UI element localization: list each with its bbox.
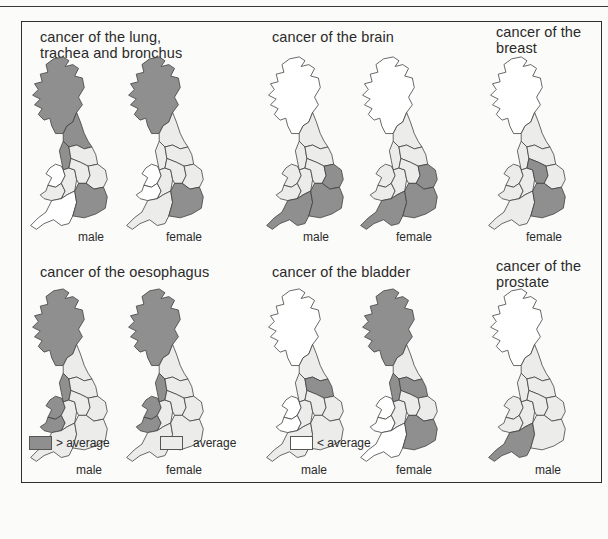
region-south-east bbox=[73, 183, 107, 217]
region-south-east bbox=[169, 183, 203, 217]
panel-title-prostate: cancer of the prostate bbox=[496, 258, 581, 290]
gb-map bbox=[258, 55, 350, 237]
sex-label: male bbox=[78, 230, 104, 244]
region-south-east bbox=[403, 183, 437, 217]
title-line: cancer of the oesophagus bbox=[40, 264, 209, 280]
sex-label: male bbox=[535, 463, 561, 477]
legend-average: average bbox=[160, 436, 236, 450]
legend-label: < average bbox=[317, 436, 371, 450]
sex-label: male bbox=[301, 463, 327, 477]
panel-title-bladder: cancer of the bladder bbox=[272, 264, 410, 280]
map-lung-male bbox=[22, 55, 114, 237]
sex-label: female bbox=[396, 463, 432, 477]
title-line: cancer of the brain bbox=[272, 29, 394, 45]
region-south-east bbox=[403, 415, 437, 449]
gb-map bbox=[480, 55, 572, 237]
legend-swatch-below bbox=[290, 436, 313, 450]
map-brain-male bbox=[258, 55, 350, 237]
map-lung-female bbox=[118, 55, 210, 237]
title-line: cancer of the bladder bbox=[272, 264, 410, 280]
map-prostate-male bbox=[480, 287, 572, 469]
gb-map bbox=[480, 287, 572, 469]
sex-label: male bbox=[76, 463, 102, 477]
title-line: cancer of the bbox=[496, 258, 581, 274]
sex-label: female bbox=[526, 230, 562, 244]
panel-title-brain: cancer of the brain bbox=[272, 29, 394, 45]
region-south-east bbox=[531, 183, 565, 217]
legend-above: > average bbox=[29, 436, 110, 450]
legend-below: < average bbox=[290, 436, 371, 450]
legend-swatch-average bbox=[160, 436, 183, 450]
panel-title-oesophagus: cancer of the oesophagus bbox=[40, 264, 209, 280]
region-south-east bbox=[309, 183, 343, 217]
panel-title-breast: cancer of the breast bbox=[496, 24, 581, 56]
gb-map bbox=[118, 55, 210, 237]
sex-label: male bbox=[303, 230, 329, 244]
legend-label: average bbox=[193, 436, 236, 450]
sex-label: female bbox=[166, 463, 202, 477]
region-south-east bbox=[531, 415, 565, 449]
map-brain-female bbox=[352, 55, 444, 237]
gb-map bbox=[352, 55, 444, 237]
title-line: cancer of the bbox=[496, 24, 581, 40]
sex-label: female bbox=[166, 230, 202, 244]
title-line: breast bbox=[496, 40, 581, 56]
legend-swatch-above bbox=[29, 436, 52, 450]
gb-map bbox=[22, 55, 114, 237]
sex-label: female bbox=[396, 230, 432, 244]
top-rule bbox=[0, 6, 608, 7]
legend-label: > average bbox=[56, 436, 110, 450]
map-breast-female bbox=[480, 55, 572, 237]
title-line: cancer of the lung, bbox=[40, 29, 182, 45]
